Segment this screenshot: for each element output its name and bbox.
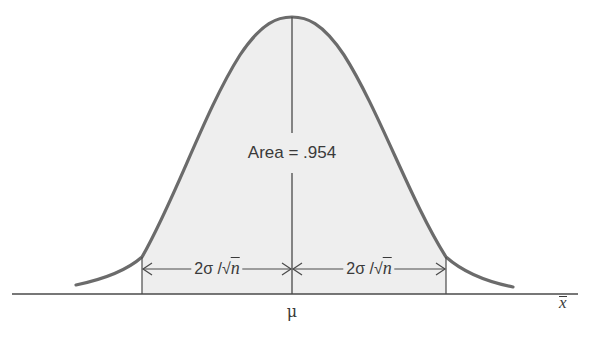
interval-var: n — [231, 258, 240, 278]
interval-prefix: 2σ /√ — [346, 260, 382, 277]
x-axis-label: x — [559, 293, 567, 313]
area-label: Area = .954 — [246, 143, 338, 163]
normal-distribution-figure — [0, 0, 591, 339]
mean-label: μ — [287, 302, 297, 321]
right-interval-label: 2σ /√n — [343, 258, 394, 279]
interval-prefix: 2σ /√ — [194, 260, 230, 277]
interval-var: n — [383, 258, 392, 278]
left-interval-label: 2σ /√n — [191, 258, 242, 279]
